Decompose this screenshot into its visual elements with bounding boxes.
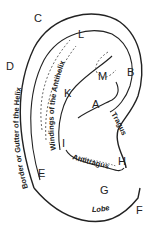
label-l: L (78, 28, 84, 40)
label-i: I (62, 137, 65, 149)
lobe-outline (34, 188, 140, 222)
ear-diagram: Border or Gutter of the Helix Windings o… (0, 0, 150, 227)
label-g: G (100, 184, 109, 196)
label-c: C (34, 12, 42, 24)
label-m: M (98, 70, 107, 82)
label-d: D (6, 60, 14, 72)
label-f: F (136, 204, 143, 216)
label-b: B (127, 66, 134, 78)
lobe-label: Lobe (92, 203, 110, 214)
helix-border-label: Border or Gutter of the Helix (11, 86, 29, 190)
label-k: K (64, 87, 72, 99)
label-a: A (92, 98, 100, 110)
antitragus-label: Antitragus (71, 152, 110, 170)
label-e: E (38, 167, 45, 179)
tragus-label: Tragus (109, 110, 128, 136)
label-h: H (118, 155, 126, 167)
